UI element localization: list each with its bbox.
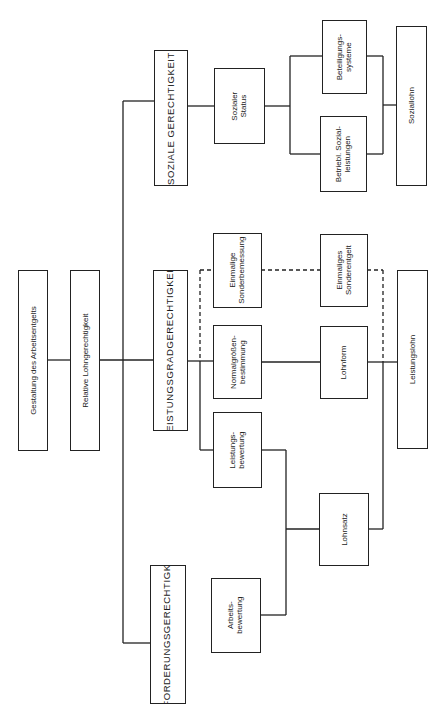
criterion-label: Arbeits- bewertung <box>227 597 245 634</box>
instrument-beteiligungssysteme: Beteiligungs- systeme <box>322 20 367 94</box>
criterion-label: Sozialer Status <box>230 92 248 121</box>
instrument-betriebl-sozialleistungen: Betriebl. Sozial- leistungen <box>320 116 367 192</box>
root-label: Gestaltung des Arbeitsentgelts <box>28 306 37 415</box>
diagram-canvas: Gestaltung des Arbeitsentgelts Relative … <box>0 0 446 715</box>
criterion-label: Leistungs- bewertung <box>228 431 246 468</box>
criterion-arbeitsbewertung: Arbeits- bewertung <box>211 578 261 653</box>
criterion-label: Normalgrößen- bestimmung <box>228 335 246 389</box>
instrument-label: Lohnform <box>339 346 348 380</box>
criterion-normalgroessenbestimmung: Normalgrößen- bestimmung <box>213 325 262 399</box>
criterion-sozialer-status: Sozialer Status <box>214 68 265 144</box>
pillar-label: LEISTUNGSGRADGERECHTIGKEIT <box>165 270 176 431</box>
instrument-label: Einmaliges Sonderentgelt <box>335 246 353 296</box>
pillar-leistungsgradgerechtigkeit: LEISTUNGSGRADGERECHTIGKEIT <box>153 270 188 431</box>
criterion-einmalige-sonderbemessung: Einmalige Sonderbemessung <box>213 233 262 308</box>
instrument-label: Betriebl. Sozial- leistungen <box>334 126 352 182</box>
instrument-label: Beteiligungs- systeme <box>335 34 353 80</box>
instrument-einmaliges-sonderentgelt: Einmaliges Sonderentgelt <box>320 234 368 307</box>
root-box: Gestaltung des Arbeitsentgelts <box>18 270 48 451</box>
pillar-anforderungsgerechtigkeit: ANFORDERUNGSGERECHTIGKEIT <box>150 565 186 704</box>
level1-label: Relative Lohngerechtigkeit <box>80 313 89 407</box>
pillar-soziale-gerechtigkeit: SOZIALE GERECHTIGKEIT <box>154 50 188 186</box>
instrument-label: Lohnsatz <box>339 513 348 545</box>
level1-box: Relative Lohngerechtigkeit <box>70 270 100 451</box>
pillar-label: ANFORDERUNGSGERECHTIGKEIT <box>163 565 174 704</box>
instrument-lohnsatz: Lohnsatz <box>319 493 369 566</box>
outcome-label: Leistungslohn <box>408 335 417 384</box>
criterion-label: Einmalige Sonderbemessung <box>228 237 246 304</box>
pillar-label: SOZIALE GERECHTIGKEIT <box>166 52 177 185</box>
outcome-label: Soziallohn <box>407 88 416 125</box>
criterion-leistungsbewertung: Leistungs- bewertung <box>213 412 262 488</box>
instrument-lohnform: Lohnform <box>320 326 368 399</box>
outcome-soziallohn: Soziallohn <box>396 26 427 186</box>
outcome-leistungslohn: Leistungslohn <box>397 270 428 449</box>
